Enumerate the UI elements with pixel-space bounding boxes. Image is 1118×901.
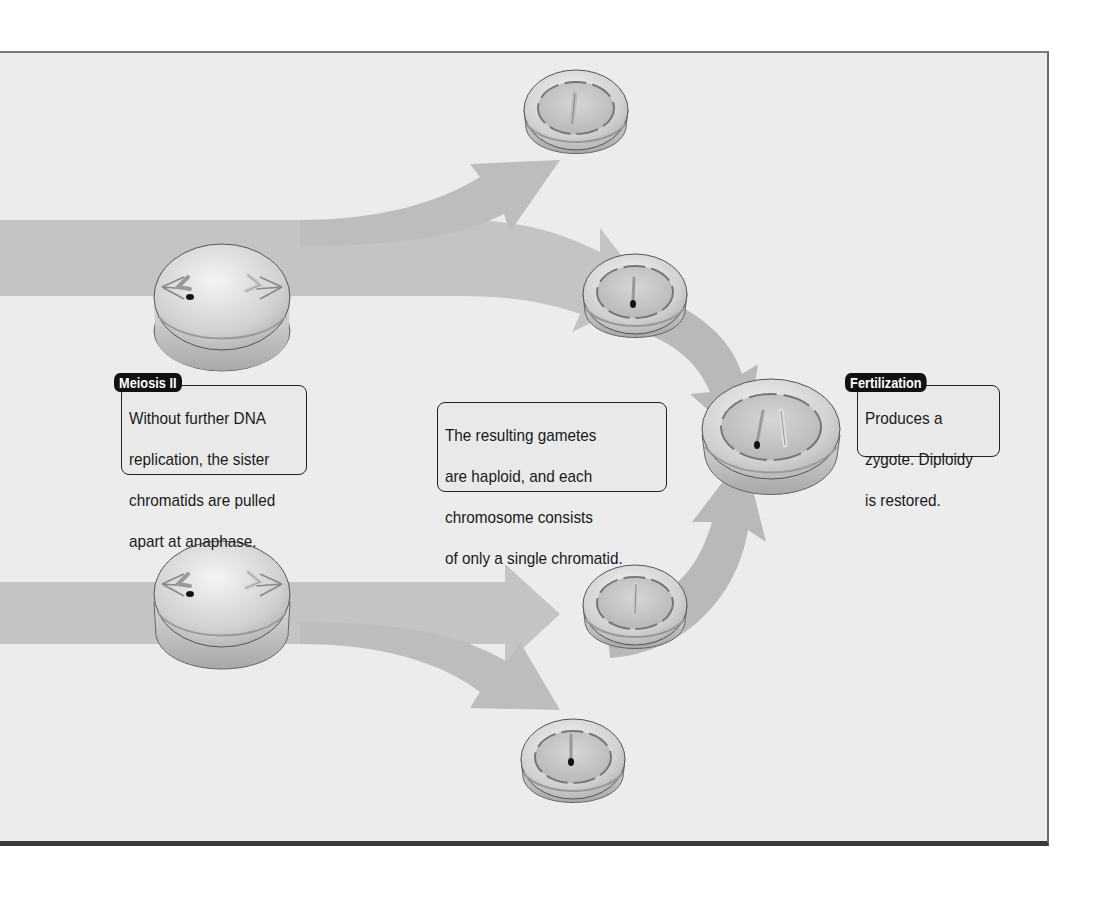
text-line: are haploid, and each <box>445 467 638 488</box>
fertilization-description: Produces a zygote. Diploidy is restored. <box>857 385 1000 457</box>
meiosis-ii-description: Without further DNA replication, the sis… <box>121 385 307 475</box>
text-line: Produces a <box>865 409 979 430</box>
gamete-2 <box>583 254 687 338</box>
text-line: zygote. Diploidy <box>865 450 979 471</box>
gametes-description: The resulting gametes are haploid, and e… <box>437 402 667 492</box>
text-line: chromosome consists <box>445 508 638 529</box>
callout-gametes: The resulting gametes are haploid, and e… <box>437 402 667 502</box>
text-line: chromatids are pulled <box>129 491 282 512</box>
text-line: The resulting gametes <box>445 426 638 447</box>
anaphase-cell-top <box>154 244 290 371</box>
text-line: of only a single chromatid. <box>445 549 638 570</box>
callout-fertilization: Produces a zygote. Diploidy is restored.… <box>845 373 1005 493</box>
zygote-cell <box>702 379 840 495</box>
text-line: is restored. <box>865 491 979 512</box>
diagram-panel: Without further DNA replication, the sis… <box>0 51 1049 846</box>
meiosis-ii-label: Meiosis II <box>114 373 182 392</box>
gamete-1 <box>524 70 628 154</box>
gamete-4 <box>521 719 625 803</box>
callout-meiosis-ii: Without further DNA replication, the sis… <box>114 373 314 513</box>
text-line: apart at anaphase. <box>129 532 282 553</box>
fertilization-label: Fertilization <box>845 373 927 392</box>
text-line: replication, the sister <box>129 450 282 471</box>
text-line: Without further DNA <box>129 409 282 430</box>
